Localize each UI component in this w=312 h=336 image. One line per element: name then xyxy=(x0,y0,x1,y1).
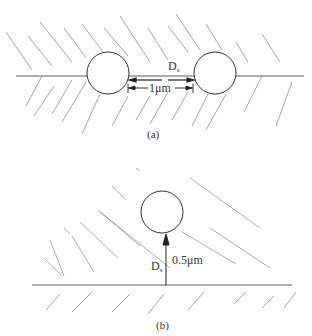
ds-sub: s xyxy=(177,66,180,74)
ds-main: D xyxy=(151,259,160,273)
sphere-right xyxy=(194,52,236,94)
sphere-left xyxy=(87,52,129,94)
distance-label-a: 1μm xyxy=(149,82,171,94)
caption-b: (b) xyxy=(156,319,169,331)
sphere xyxy=(141,191,183,233)
distance-arrow-b xyxy=(163,234,169,285)
caption-a: (a) xyxy=(147,128,159,140)
ds-main: D xyxy=(168,59,177,73)
hatch-lines-a-top xyxy=(6,14,280,70)
panel-a xyxy=(6,14,304,134)
diagram-canvas xyxy=(0,0,312,336)
separation-label-a: Ds xyxy=(168,60,179,76)
ds-sub: s xyxy=(160,266,163,274)
distance-label-b: 0.5μm xyxy=(172,254,203,266)
hatch-lines-b-bottom xyxy=(46,292,296,314)
separation-label-b: Ds xyxy=(151,260,162,276)
panel-b xyxy=(32,168,296,314)
